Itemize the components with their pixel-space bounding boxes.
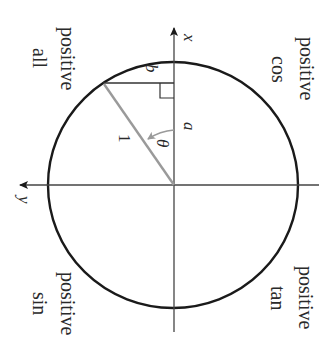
- y-axis-label: y: [15, 194, 34, 204]
- side-a-label: a: [180, 122, 199, 131]
- angle-arc: [148, 130, 174, 139]
- quadrant-label-line1: cos: [268, 56, 290, 83]
- quadrant-label-line1: all: [29, 48, 51, 68]
- quadrant-label-tan: tan positive: [267, 266, 317, 329]
- quadrant-label-all: all positive: [29, 27, 79, 90]
- radius-line: [104, 84, 174, 185]
- hypotenuse-label: 1: [115, 134, 134, 143]
- quadrant-label-line2: positive: [56, 27, 79, 90]
- quadrant-label-line2: positive: [295, 37, 318, 100]
- quadrant-label-cos: cos positive: [268, 37, 318, 100]
- quadrant-label-line1: tan: [267, 286, 289, 310]
- quadrant-label-sin: sin positive: [29, 272, 79, 335]
- right-angle-marker: [160, 83, 174, 98]
- x-axis-label: x: [180, 33, 199, 42]
- unit-circle-diagram: x y b a 1 θ all positive cos positive si…: [0, 0, 319, 351]
- quadrant-label-line2: positive: [56, 272, 79, 335]
- angle-label: θ: [153, 139, 172, 147]
- side-b-label: b: [142, 64, 161, 73]
- quadrant-label-line1: sin: [29, 292, 51, 315]
- quadrant-label-line2: positive: [294, 266, 317, 329]
